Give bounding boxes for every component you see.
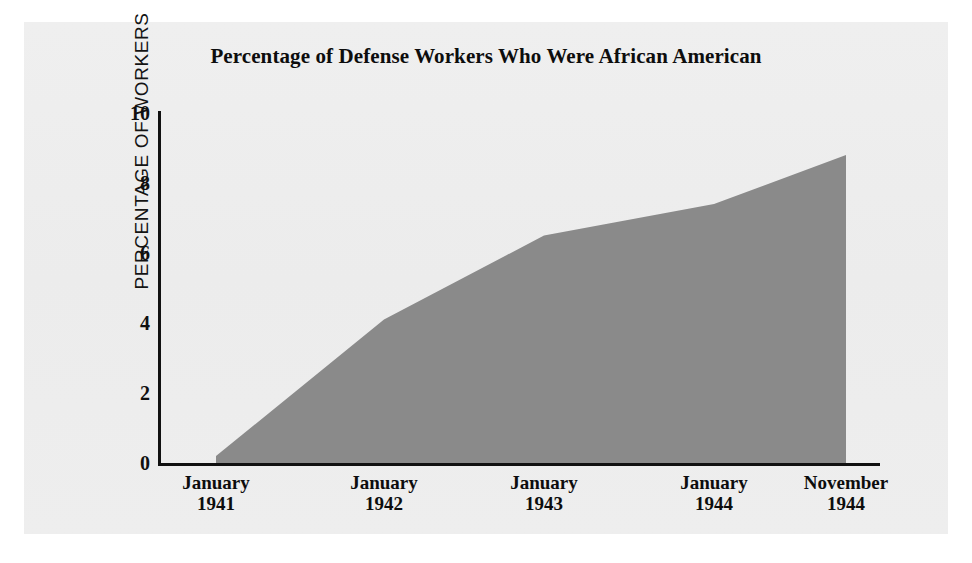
x-tick-month: January xyxy=(680,472,748,493)
y-tick-label-0: 0 xyxy=(110,453,150,473)
x-axis-tick-labels: January 1941 January 1942 January 1943 J… xyxy=(158,472,898,532)
y-tick-label-10: 10 xyxy=(110,103,150,123)
y-tick-label-8: 8 xyxy=(110,173,150,193)
x-tick-month: January xyxy=(182,472,250,493)
area-polygon xyxy=(216,155,846,463)
x-tick-month: January xyxy=(350,472,418,493)
x-tick-year: 1944 xyxy=(804,493,888,514)
x-tick-year: 1944 xyxy=(680,493,748,514)
x-tick-year: 1941 xyxy=(182,493,250,514)
plot-area xyxy=(158,113,878,463)
area-series xyxy=(158,113,878,463)
chart-panel: Percentage of Defense Workers Who Were A… xyxy=(24,22,948,534)
x-tick-label-january-1941: January 1941 xyxy=(182,472,250,515)
x-tick-year: 1942 xyxy=(350,493,418,514)
x-tick-label-january-1942: January 1942 xyxy=(350,472,418,515)
y-tick-label-4: 4 xyxy=(110,313,150,333)
x-axis-line xyxy=(158,463,880,466)
x-tick-year: 1943 xyxy=(510,493,578,514)
x-tick-label-january-1943: January 1943 xyxy=(510,472,578,515)
y-tick-label-2: 2 xyxy=(110,383,150,403)
x-tick-label-january-1944: January 1944 xyxy=(680,472,748,515)
chart-title: Percentage of Defense Workers Who Were A… xyxy=(24,44,948,69)
x-tick-month: January xyxy=(510,472,578,493)
y-axis-tick-labels: 10 8 6 4 2 0 xyxy=(102,113,150,463)
y-tick-label-6: 6 xyxy=(110,243,150,263)
x-tick-month: November xyxy=(804,472,888,493)
x-tick-label-november-1944: November 1944 xyxy=(804,472,888,515)
figure-container: Percentage of Defense Workers Who Were A… xyxy=(0,0,972,563)
